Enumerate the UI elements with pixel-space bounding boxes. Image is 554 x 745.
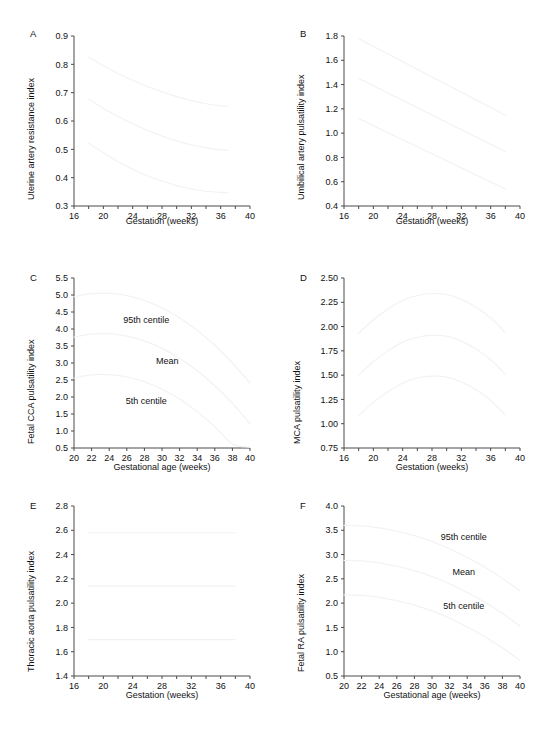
y-tick-label: 0.6 <box>325 177 338 187</box>
y-tick-label: 4.0 <box>55 324 68 334</box>
y-tick-label: 0.3 <box>55 201 68 211</box>
x-tick-label: 30 <box>157 453 167 463</box>
x-tick-label: 36 <box>480 681 490 691</box>
plot-a: 0.30.40.50.60.70.80.916202428323640 <box>42 30 256 222</box>
x-tick-label: 24 <box>374 681 384 691</box>
y-tick-label: 2.0 <box>55 392 68 402</box>
x-tick-label: 20 <box>69 453 79 463</box>
y-tick-label: 2.0 <box>55 598 68 608</box>
y-tick-label: 2.4 <box>55 550 68 560</box>
y-axis-label-e: Thoracic aorta pulsatility index <box>26 551 36 672</box>
y-tick-label: 1.0 <box>325 647 338 657</box>
y-tick-label: 4.5 <box>55 307 68 317</box>
y-tick-label: 1.6 <box>55 647 68 657</box>
curve-mean <box>359 79 506 152</box>
y-tick-label: 1.0 <box>55 426 68 436</box>
x-tick-label: 28 <box>409 681 419 691</box>
y-tick-label: 5.5 <box>55 273 68 283</box>
x-tick-label: 38 <box>497 681 507 691</box>
curve-5th-centile <box>74 374 250 447</box>
y-tick-label: 0.8 <box>325 153 338 163</box>
y-tick-label: 3.0 <box>325 550 338 560</box>
axis-spines <box>74 506 250 676</box>
axis-spines <box>344 36 520 206</box>
figure-multipanel: AUterine artery resistance indexGestatio… <box>0 0 554 745</box>
y-tick-label: 0.75 <box>320 443 338 453</box>
x-tick-label: 26 <box>122 453 132 463</box>
y-tick-label: 0.8 <box>55 60 68 70</box>
x-tick-label: 22 <box>87 453 97 463</box>
x-tick-label: 36 <box>216 681 226 691</box>
y-tick-label: 2.5 <box>55 375 68 385</box>
y-tick-label: 1.2 <box>325 104 338 114</box>
curve-95th-centile <box>359 38 506 115</box>
panel-letter-a: A <box>30 28 37 39</box>
annotation-95th-centile: 95th centile <box>123 315 169 325</box>
curve-95th-centile <box>344 525 520 591</box>
y-tick-label: 2.50 <box>320 273 338 283</box>
y-tick-label: 1.25 <box>320 395 338 405</box>
x-tick-label: 38 <box>227 453 237 463</box>
x-tick-label: 24 <box>398 453 408 463</box>
curve-mean <box>344 560 520 626</box>
panel-letter-f: F <box>300 500 306 511</box>
panel-letter-b: B <box>300 28 307 39</box>
x-tick-label: 16 <box>69 211 79 221</box>
x-tick-label: 20 <box>368 211 378 221</box>
x-tick-label: 24 <box>128 681 138 691</box>
y-tick-label: 5.0 <box>55 290 68 300</box>
curve-mean <box>74 334 250 424</box>
y-tick-label: 2.25 <box>320 297 338 307</box>
y-tick-label: 4.0 <box>325 501 338 511</box>
x-tick-label: 32 <box>445 681 455 691</box>
curve-mean <box>359 335 506 375</box>
x-tick-label: 28 <box>427 211 437 221</box>
x-tick-label: 28 <box>139 453 149 463</box>
y-tick-label: 0.4 <box>325 201 338 211</box>
x-tick-label: 40 <box>515 453 525 463</box>
y-tick-label: 2.5 <box>325 574 338 584</box>
x-tick-label: 28 <box>157 211 167 221</box>
x-tick-label: 16 <box>339 211 349 221</box>
x-tick-label: 30 <box>427 681 437 691</box>
x-tick-label: 16 <box>339 453 349 463</box>
y-axis-label-d: MCA pulsatility index <box>292 361 302 444</box>
plot-c: 0.51.01.52.02.53.03.54.04.55.05.52022242… <box>42 272 256 464</box>
x-tick-label: 36 <box>486 453 496 463</box>
x-tick-label: 20 <box>98 681 108 691</box>
y-tick-label: 0.5 <box>55 443 68 453</box>
plot-b: 0.40.60.81.01.21.41.61.816202428323640 <box>312 30 526 222</box>
x-tick-label: 32 <box>186 211 196 221</box>
y-tick-label: 1.0 <box>325 128 338 138</box>
x-tick-label: 34 <box>192 453 202 463</box>
annotation-mean: Mean <box>452 567 475 577</box>
y-tick-label: 3.0 <box>55 358 68 368</box>
y-tick-label: 1.8 <box>55 623 68 633</box>
x-tick-label: 32 <box>456 453 466 463</box>
plot-d: 0.751.001.251.501.752.002.252.5016202428… <box>312 272 526 464</box>
panel-letter-c: C <box>30 272 37 283</box>
x-tick-label: 40 <box>245 681 255 691</box>
y-tick-label: 0.5 <box>55 145 68 155</box>
y-tick-label: 2.0 <box>325 598 338 608</box>
curve-5th-centile <box>359 376 506 416</box>
x-tick-label: 40 <box>245 453 255 463</box>
x-tick-label: 28 <box>427 453 437 463</box>
x-tick-label: 40 <box>515 211 525 221</box>
y-tick-label: 1.75 <box>320 346 338 356</box>
y-tick-label: 1.4 <box>325 80 338 90</box>
x-tick-label: 32 <box>186 681 196 691</box>
curve-5th-centile <box>359 119 506 189</box>
annotation-5th-centile: 5th centile <box>126 396 167 406</box>
y-axis-label-c: Fetal CCA pulsatility index <box>26 339 36 444</box>
y-tick-label: 0.4 <box>55 173 68 183</box>
plot-f: 0.51.01.52.02.53.03.54.02022242628303234… <box>312 500 526 692</box>
x-tick-label: 28 <box>157 681 167 691</box>
curve-5th-centile <box>344 595 520 661</box>
y-axis-label-f: Fetal RA pulsatility index <box>296 574 306 672</box>
x-tick-label: 36 <box>486 211 496 221</box>
panel-letter-d: D <box>300 272 307 283</box>
annotation-mean: Mean <box>156 356 179 366</box>
x-tick-label: 20 <box>98 211 108 221</box>
x-tick-label: 36 <box>216 211 226 221</box>
